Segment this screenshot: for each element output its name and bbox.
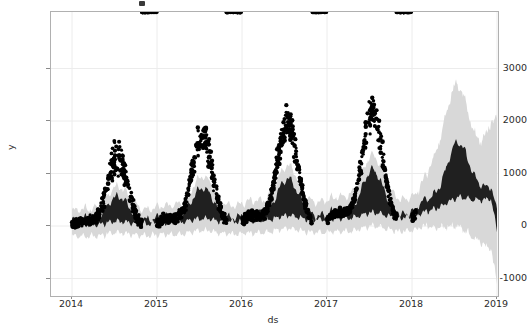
forecast-plot-svg — [51, 12, 498, 296]
forecast-figure: y ds 3000 2000 1000 0 -1000 2014 2015 20… — [0, 0, 527, 331]
y-axis-label: y — [5, 144, 16, 150]
x-tick-label-2018: 2018 — [399, 298, 423, 309]
clipped-datapoint-marker — [139, 1, 145, 6]
x-axis-label: ds — [268, 314, 279, 325]
uncertainty-interval-band — [72, 79, 497, 284]
x-tick-label-2015: 2015 — [144, 298, 168, 309]
x-tick-label-2017: 2017 — [314, 298, 338, 309]
x-tick-label-2019: 2019 — [484, 298, 508, 309]
x-tick-label-2014: 2014 — [59, 298, 83, 309]
plot-area — [50, 11, 499, 297]
x-tick-label-2016: 2016 — [229, 298, 253, 309]
